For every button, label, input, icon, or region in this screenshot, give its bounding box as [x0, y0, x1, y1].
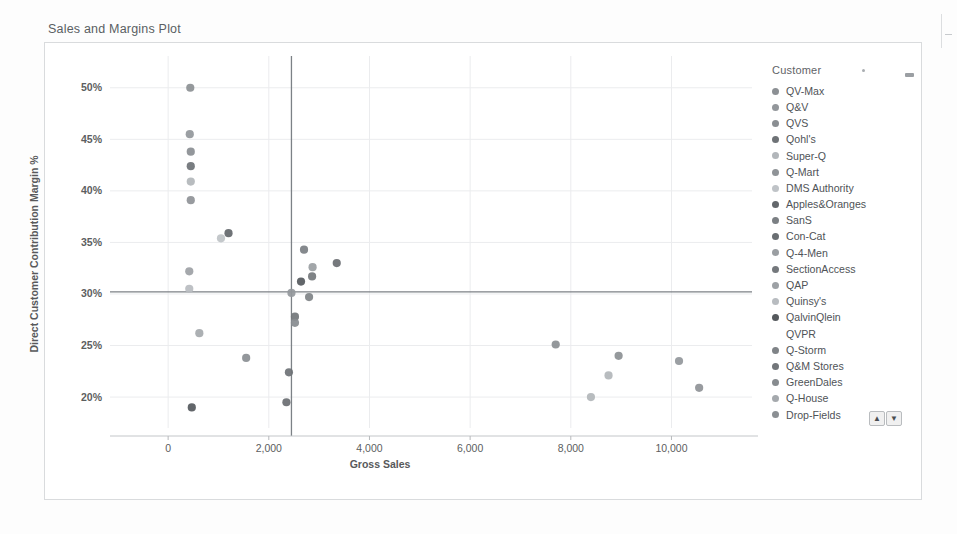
legend-item[interactable]: Q&M Stores — [772, 358, 922, 374]
legend-swatch-icon — [772, 88, 779, 95]
legend-item[interactable]: Con-Cat — [772, 229, 922, 245]
legend-item[interactable]: Quinsy's — [772, 293, 922, 309]
legend-swatch-icon — [772, 217, 779, 224]
legend-item[interactable]: DMS Authority — [772, 180, 922, 196]
legend-item[interactable]: QAP — [772, 277, 922, 293]
legend-swatch-icon — [772, 120, 779, 127]
legend-item-label: Q-Mart — [786, 167, 819, 178]
legend-scroll-down-button[interactable]: ▼ — [886, 411, 902, 426]
legend-item[interactable]: QVPR — [772, 326, 922, 342]
legend-item-label: Super-Q — [786, 151, 826, 162]
legend-item-label: SectionAccess — [786, 264, 855, 275]
legend-swatch-icon — [772, 233, 779, 240]
y-axis-title: Direct Customer Contribution Margin % — [28, 124, 40, 384]
legend-swatch-icon — [772, 330, 779, 337]
legend-item-label: DMS Authority — [786, 183, 854, 194]
legend-swatch-icon — [772, 169, 779, 176]
legend-item-label: QVS — [786, 118, 808, 129]
legend-swatch-icon — [772, 185, 779, 192]
legend-swatch-icon — [772, 298, 779, 305]
legend-item-label: Qohl's — [786, 134, 816, 145]
legend-item-label: Drop-Fields — [786, 410, 841, 421]
legend-item-label: QVPR — [786, 329, 816, 340]
legend-swatch-icon — [772, 363, 779, 370]
legend-item[interactable]: QVS — [772, 115, 922, 131]
legend-item[interactable]: QV-Max — [772, 83, 922, 99]
legend-swatch-icon — [772, 411, 779, 418]
legend-swatch-icon — [772, 282, 779, 289]
legend-swatch-icon — [772, 347, 779, 354]
legend-item-label: Apples&Oranges — [786, 199, 866, 210]
legend-item[interactable]: Q&V — [772, 99, 922, 115]
legend-item-label: Con-Cat — [786, 231, 825, 242]
legend-item-label: QV-Max — [786, 86, 824, 97]
legend-item[interactable]: Q-House — [772, 391, 922, 407]
legend-scroll-controls[interactable]: ▲ ▼ — [869, 411, 902, 426]
legend-item-label: Q&M Stores — [786, 361, 844, 372]
legend-item-label: QalvinQlein — [786, 312, 841, 323]
legend-title: Customer — [772, 64, 922, 76]
chart-object-container: Sales and Margins Plot 02,0004,0006,0008… — [0, 0, 957, 534]
x-axis-title: Gross Sales — [0, 458, 760, 470]
legend-scroll-up-button[interactable]: ▲ — [869, 411, 885, 426]
legend: Customer QV-MaxQ&VQVSQohl'sSuper-QQ-Mart… — [772, 64, 922, 423]
legend-item-label: QAP — [786, 280, 808, 291]
legend-item[interactable]: Super-Q — [772, 148, 922, 164]
legend-swatch-icon — [772, 314, 779, 321]
legend-item-label: Q-House — [786, 393, 828, 404]
legend-swatch-icon — [772, 395, 779, 402]
legend-item-label: Q&V — [786, 102, 808, 113]
legend-swatch-icon — [772, 104, 779, 111]
legend-item[interactable]: Q-4-Men — [772, 245, 922, 261]
legend-item[interactable]: SectionAccess — [772, 261, 922, 277]
legend-swatch-icon — [772, 249, 779, 256]
legend-item-label: SanS — [786, 215, 812, 226]
legend-item[interactable]: Apples&Oranges — [772, 196, 922, 212]
legend-item[interactable]: GreenDales — [772, 374, 922, 390]
legend-swatch-icon — [772, 136, 779, 143]
legend-item-label: Quinsy's — [786, 296, 826, 307]
legend-item[interactable]: Q-Storm — [772, 342, 922, 358]
legend-item[interactable]: Q-Mart — [772, 164, 922, 180]
legend-item[interactable]: QalvinQlein — [772, 310, 922, 326]
legend-menu-dot-icon[interactable] — [862, 69, 865, 72]
legend-item[interactable]: SanS — [772, 213, 922, 229]
legend-item-label: Q-4-Men — [786, 248, 828, 259]
legend-swatch-icon — [772, 201, 779, 208]
adjacent-object-edge — [941, 14, 957, 48]
legend-swatch-icon — [772, 379, 779, 386]
adjacent-object-line-icon — [945, 34, 952, 35]
legend-swatch-icon — [772, 266, 779, 273]
legend-item-label: Q-Storm — [786, 345, 826, 356]
legend-list: QV-MaxQ&VQVSQohl'sSuper-QQ-MartDMS Autho… — [772, 83, 922, 423]
legend-item[interactable]: Qohl's — [772, 132, 922, 148]
legend-swatch-icon — [772, 152, 779, 159]
legend-item-label: GreenDales — [786, 377, 843, 388]
page-title: Sales and Margins Plot — [48, 22, 181, 36]
